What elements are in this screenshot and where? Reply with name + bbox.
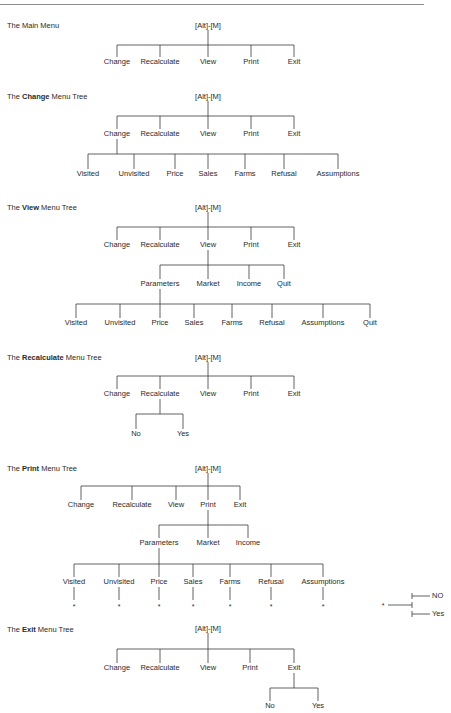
tree-title-view: The View Menu Tree [7,204,77,212]
title-rest: Main Menu [22,21,59,30]
menu-node-price: Price [166,170,183,178]
menu-tree-diagram: The Main Menu[Alt]-[M]ChangeRecalculateV… [0,0,451,713]
menu-node-change: Change [104,241,130,249]
title-prefix: The [7,464,22,473]
menu-node-quit: Quit [277,280,291,288]
menu-node-assumptions: Assumptions [302,578,345,586]
menu-node-no: No [265,702,275,710]
tree-title-exit: The Exit Menu Tree [7,626,74,634]
root-node-alt-m: [Alt]-[M] [195,22,221,30]
menu-node-income: Income [236,539,261,547]
menu-node-recalculate: Recalculate [140,390,179,398]
menu-node-farms: Farms [234,170,255,178]
title-rest: Menu Tree [39,203,77,212]
menu-node-visited: Visited [77,170,99,178]
menu-node-assumptions: Assumptions [317,170,360,178]
menu-node-parameters: Parameters [141,280,180,288]
menu-node-visited: Visited [63,578,85,586]
menu-node-unvisited: Unvisited [119,170,150,178]
menu-node-visited: Visited [65,319,87,327]
legend-yes-label: Yes [432,610,444,618]
menu-node-price: Price [150,578,167,586]
title-bold: Change [22,92,50,101]
title-prefix: The [7,625,22,634]
star-marker: * [118,603,121,610]
root-node-alt-m: [Alt]-[M] [195,93,221,101]
menu-node-sales: Sales [184,578,203,586]
menu-node-yes: Yes [312,702,324,710]
title-rest: Menu Tree [36,625,74,634]
title-bold: Recalculate [22,353,64,362]
tree-title-change: The Change Menu Tree [7,93,87,101]
menu-node-exit: Exit [234,501,247,509]
menu-node-view: View [200,241,216,249]
menu-node-recalculate: Recalculate [140,241,179,249]
menu-node-view: View [168,501,184,509]
root-node-alt-m: [Alt]-[M] [195,625,221,633]
menu-node-exit: Exit [288,664,301,672]
title-bold: View [22,203,39,212]
root-node-alt-m: [Alt]-[M] [195,465,221,473]
menu-node-quit: Quit [363,319,377,327]
menu-node-sales: Sales [185,319,204,327]
legend-no-label: NO [432,592,443,600]
menu-node-refusal: Refusal [258,578,283,586]
menu-node-change: Change [68,501,94,509]
menu-node-farms: Farms [221,319,242,327]
menu-node-recalculate: Recalculate [140,130,179,138]
menu-node-price: Price [151,319,168,327]
menu-node-change: Change [104,58,130,66]
menu-node-unvisited: Unvisited [105,319,136,327]
menu-node-exit: Exit [288,241,301,249]
tree-title-main: The Main Menu [7,22,59,30]
title-rest: Menu Tree [50,92,88,101]
menu-node-print: Print [200,501,215,509]
title-rest: Menu Tree [64,353,102,362]
menu-node-exit: Exit [288,58,301,66]
menu-node-recalculate: Recalculate [140,664,179,672]
menu-node-print: Print [243,390,258,398]
menu-node-market: Market [197,280,220,288]
menu-node-change: Change [104,664,130,672]
title-prefix: The [7,203,22,212]
root-node-alt-m: [Alt]-[M] [195,204,221,212]
menu-node-exit: Exit [288,390,301,398]
star-marker: * [270,603,273,610]
star-marker: * [229,603,232,610]
menu-node-view: View [200,58,216,66]
menu-node-exit: Exit [288,130,301,138]
tree-title-recalculate: The Recalculate Menu Tree [7,354,102,362]
menu-node-income: Income [237,280,262,288]
menu-node-view: View [200,664,216,672]
root-node-alt-m: [Alt]-[M] [195,354,221,362]
menu-node-refusal: Refusal [271,170,296,178]
menu-node-view: View [200,130,216,138]
menu-node-print: Print [243,130,258,138]
title-prefix: The [7,92,22,101]
legend-star: * [382,602,385,609]
title-rest: Menu Tree [39,464,77,473]
menu-node-view: View [200,390,216,398]
star-marker: * [322,603,325,610]
menu-node-print: Print [242,664,257,672]
menu-node-print: Print [243,58,258,66]
menu-node-parameters: Parameters [140,539,179,547]
menu-node-market: Market [197,539,220,547]
menu-node-assumptions: Assumptions [302,319,345,327]
menu-node-sales: Sales [199,170,218,178]
menu-node-farms: Farms [219,578,240,586]
menu-node-yes: Yes [177,430,189,438]
menu-node-no: No [131,430,141,438]
star-marker: * [73,603,76,610]
star-marker: * [192,603,195,610]
menu-node-refusal: Refusal [259,319,284,327]
menu-node-recalculate: Recalculate [140,58,179,66]
title-bold: Exit [22,625,36,634]
menu-node-recalculate: Recalculate [112,501,151,509]
menu-node-print: Print [243,241,258,249]
title-prefix: The [7,21,22,30]
menu-node-unvisited: Unvisited [104,578,135,586]
title-bold: Print [22,464,39,473]
title-prefix: The [7,353,22,362]
menu-node-change: Change [104,390,130,398]
